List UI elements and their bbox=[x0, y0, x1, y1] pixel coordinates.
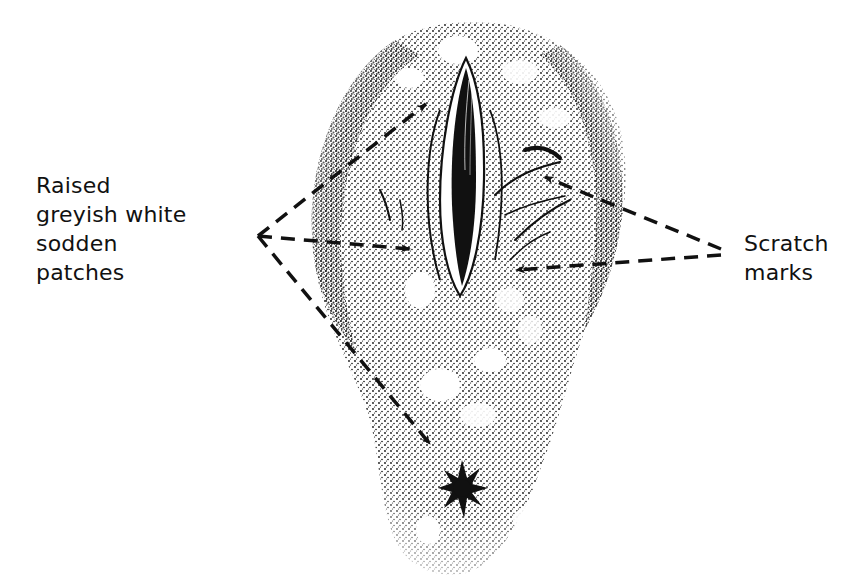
label-sodden-patches: Raised greyish white sodden patches bbox=[36, 171, 186, 287]
label-line: patches bbox=[36, 258, 186, 287]
label-line: sodden bbox=[36, 229, 186, 258]
label-line: greyish white bbox=[36, 200, 186, 229]
label-line: Scratch bbox=[744, 229, 829, 258]
label-line: marks bbox=[744, 258, 829, 287]
anatomical-illustration bbox=[0, 0, 864, 583]
label-scratch-marks: Scratch marks bbox=[744, 229, 829, 287]
label-line: Raised bbox=[36, 171, 186, 200]
